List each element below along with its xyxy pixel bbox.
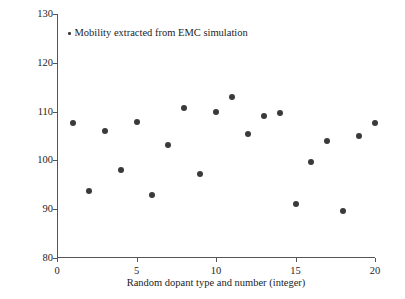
data-point [134, 119, 140, 125]
y-tick-mark [53, 209, 57, 210]
data-point [149, 192, 155, 198]
y-tick-mark [53, 63, 57, 64]
plot-area: 8090100110120130 05101520 [57, 14, 375, 258]
data-point [118, 167, 124, 173]
legend: Mobility extracted from EMC simulation [68, 28, 248, 39]
y-tick-label: 100 [37, 155, 53, 166]
data-point [372, 120, 378, 126]
data-point [197, 171, 203, 177]
x-tick-label: 10 [211, 266, 222, 277]
x-tick-mark [216, 258, 217, 262]
data-point [356, 133, 362, 139]
y-axis-line [57, 14, 58, 258]
x-tick-label: 15 [290, 266, 301, 277]
data-point [102, 128, 108, 134]
y-tick-label: 120 [37, 58, 53, 69]
y-tick-mark [53, 160, 57, 161]
x-tick-label: 20 [370, 266, 381, 277]
y-tick-mark [53, 14, 57, 15]
x-tick-mark [57, 258, 58, 262]
data-point [324, 138, 330, 144]
x-axis-title: Random dopant type and number (integer) [57, 278, 375, 289]
x-tick-label: 0 [54, 266, 59, 277]
data-point [340, 208, 346, 214]
data-point [293, 201, 299, 207]
data-point [308, 159, 314, 165]
legend-marker-icon [68, 32, 71, 35]
data-point [245, 131, 251, 137]
data-point [181, 105, 187, 111]
x-tick-mark [296, 258, 297, 262]
y-tick-label: 110 [38, 106, 53, 117]
data-point [261, 113, 267, 119]
data-point [86, 188, 92, 194]
x-tick-label: 5 [134, 266, 139, 277]
y-tick-mark [53, 112, 57, 113]
chart-figure: 8090100110120130 05101520 Mobility extra… [0, 0, 405, 299]
data-point [229, 94, 235, 100]
y-tick-label: 130 [37, 9, 53, 20]
legend-label: Mobility extracted from EMC simulation [75, 28, 248, 39]
x-tick-mark [375, 258, 376, 262]
x-tick-mark [137, 258, 138, 262]
data-point [70, 120, 76, 126]
y-tick-label: 90 [43, 204, 54, 215]
data-point [165, 142, 171, 148]
data-point [213, 109, 219, 115]
data-point [277, 110, 283, 116]
y-tick-label: 80 [43, 253, 54, 264]
